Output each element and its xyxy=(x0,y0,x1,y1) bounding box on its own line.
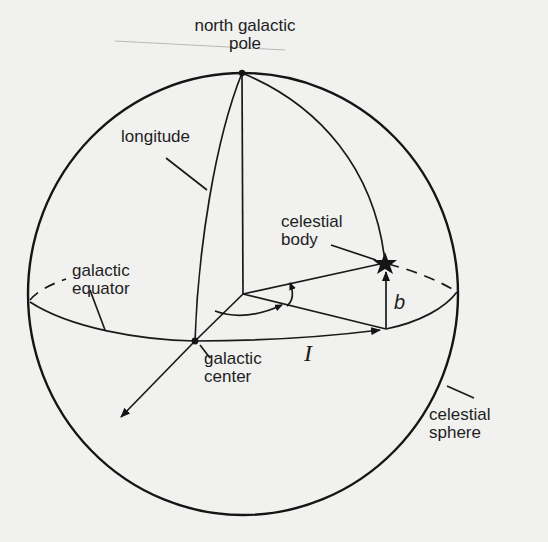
latitude-angle-arc xyxy=(287,283,292,306)
longitude-label: longitude xyxy=(121,128,190,146)
line-to-celestial-body xyxy=(243,264,380,294)
galactic-coordinates-diagram: north galactic pole longitude celestial … xyxy=(0,0,548,542)
galactic-center-point xyxy=(192,338,199,345)
equator-front-left xyxy=(30,302,195,341)
celestial-sphere-label: celestial sphere xyxy=(429,406,490,442)
star-icon xyxy=(373,252,397,274)
axis-toward-observer-arrow xyxy=(121,341,195,417)
equator-back-right-dashed xyxy=(388,264,457,292)
longitude-angle-arc xyxy=(215,305,282,315)
longitude-leader-line xyxy=(166,158,207,190)
galactic-equator-label: galactic equator xyxy=(72,262,130,298)
polar-axis xyxy=(242,73,243,294)
latitude-symbol-b: b xyxy=(394,291,405,314)
north-galactic-pole-point xyxy=(239,70,245,76)
celestial-sphere-leader-line xyxy=(447,386,474,398)
equator-back-left-dashed xyxy=(30,279,66,300)
north-galactic-pole-label: north galactic pole xyxy=(185,17,305,53)
line-to-galactic-center xyxy=(195,294,243,341)
longitude-symbol-l: I xyxy=(304,340,312,367)
longitude-arrow-l xyxy=(195,330,380,341)
galactic-center-label: galactic center xyxy=(204,350,262,386)
celestial-body-label: celestial body xyxy=(281,213,342,249)
